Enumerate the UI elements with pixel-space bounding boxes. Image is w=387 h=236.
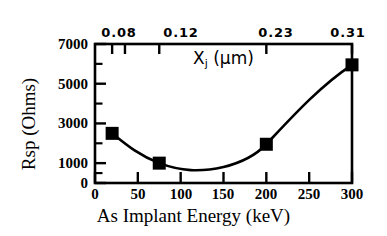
- x-tick-label-200: 200: [255, 187, 278, 202]
- top-axis-title-subscript: j: [205, 57, 208, 70]
- y-tick-label-5000: 5000: [38, 77, 88, 92]
- x-tick-label-250: 250: [298, 187, 321, 202]
- top-tick-label-0-31: 0.31: [330, 25, 365, 40]
- x-bottom-ticks: [95, 172, 352, 183]
- y-axis-title: Rsp (Ohms): [18, 49, 40, 199]
- top-tick-label-0-08: 0.08: [101, 25, 136, 40]
- x-tick-label-50: 50: [131, 187, 146, 202]
- top-tick-label-0-23: 0.23: [258, 25, 293, 40]
- top-axis-title: Xj (μm): [95, 48, 352, 68]
- y-tick-label-1000: 1000: [38, 156, 88, 171]
- y-tick-label-3000: 3000: [38, 116, 88, 131]
- x-tick-label-0: 0: [91, 187, 99, 202]
- x-tick-label-300: 300: [341, 187, 364, 202]
- y-tick-label-7000: 7000: [38, 37, 88, 52]
- x-axis-title: As Implant Energy (keV): [0, 205, 387, 227]
- y-tick-label-0: 0: [38, 176, 88, 191]
- chart-figure: 0 1000 3000 5000 7000 0 50 100 150 200 2…: [0, 0, 387, 236]
- top-axis-title-unit: (μm): [208, 48, 254, 68]
- data-curve: [112, 65, 352, 170]
- x-tick-label-150: 150: [212, 187, 235, 202]
- data-markers: [106, 58, 359, 169]
- x-tick-label-100: 100: [170, 187, 193, 202]
- top-tick-label-0-12: 0.12: [163, 25, 198, 40]
- top-axis-title-base: X: [193, 48, 205, 68]
